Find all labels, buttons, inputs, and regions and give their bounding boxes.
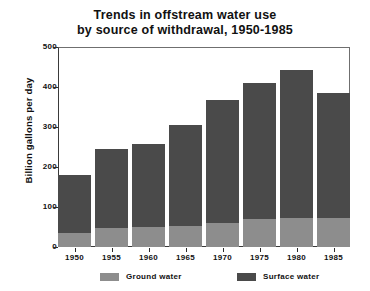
x-tick-mark (260, 248, 261, 252)
x-tick-label: 1975 (240, 253, 280, 262)
x-tick-mark (75, 248, 76, 252)
bar-segment-surface-water (317, 93, 350, 218)
y-tick-label: 200 (11, 162, 57, 171)
x-tick-label: 1955 (92, 253, 132, 262)
bar-segment-surface-water (243, 83, 276, 219)
x-tick-mark (112, 248, 113, 252)
bar-segment-surface-water (132, 144, 165, 227)
chart-title-line1: Trends in offstream water use (94, 8, 277, 22)
legend-swatch (100, 273, 119, 281)
bar-segment-surface-water (280, 70, 313, 218)
x-tick-mark (297, 248, 298, 252)
x-tick-mark (334, 248, 335, 252)
y-tick-label: 100 (11, 202, 57, 211)
bar-series-group (58, 47, 350, 247)
bar-segment-surface-water (95, 149, 128, 228)
bar-segment-ground-water (95, 228, 128, 247)
bar-segment-ground-water (132, 227, 165, 247)
x-tick-label: 1965 (166, 253, 206, 262)
bar-column (243, 83, 276, 247)
bar-column (169, 125, 202, 247)
bar-column (58, 175, 91, 247)
bar-segment-ground-water (206, 223, 239, 247)
chart-legend: Ground waterSurface water (0, 272, 370, 286)
bar-chart: Trends in offstream water use by source … (0, 0, 370, 291)
bar-column (95, 149, 128, 247)
x-tick-label: 1980 (277, 253, 317, 262)
bar-segment-ground-water (280, 218, 313, 247)
legend-label: Surface water (263, 272, 319, 281)
bar-column (317, 93, 350, 247)
x-tick-mark (223, 248, 224, 252)
bar-segment-ground-water (169, 226, 202, 247)
bar-segment-surface-water (169, 125, 202, 226)
y-tick-label: 400 (11, 82, 57, 91)
bar-column (132, 144, 165, 247)
y-tick-mark (53, 247, 58, 248)
y-tick-label: 500 (11, 42, 57, 51)
x-tick-label: 1950 (55, 253, 95, 262)
bar-column (206, 100, 239, 247)
legend-item: Ground water (100, 272, 182, 281)
x-tick-label: 1985 (314, 253, 354, 262)
chart-title: Trends in offstream water use by source … (0, 8, 370, 38)
legend-swatch (237, 273, 256, 281)
y-tick-label: 0 (11, 242, 57, 251)
legend-item: Surface water (237, 272, 319, 281)
x-tick-label: 1960 (129, 253, 169, 262)
bar-column (280, 70, 313, 247)
legend-label: Ground water (126, 272, 182, 281)
y-tick-label: 300 (11, 122, 57, 131)
bar-segment-ground-water (243, 219, 276, 247)
chart-title-line2: by source of withdrawal, 1950-1985 (0, 23, 370, 38)
x-tick-mark (149, 248, 150, 252)
bar-segment-surface-water (206, 100, 239, 223)
x-tick-label: 1970 (203, 253, 243, 262)
bar-segment-ground-water (317, 218, 350, 247)
bar-segment-ground-water (58, 233, 91, 247)
x-tick-mark (186, 248, 187, 252)
bar-segment-surface-water (58, 175, 91, 233)
